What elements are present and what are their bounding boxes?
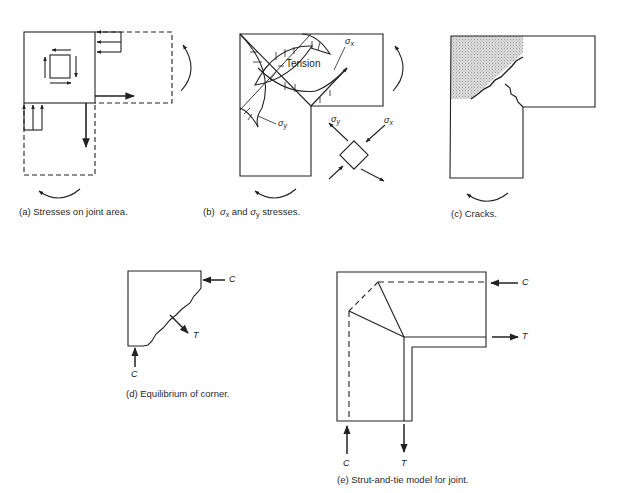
joint-square <box>24 32 95 103</box>
label-d-c-right: C <box>229 274 236 284</box>
caption-b-suffix: stresses. <box>260 206 301 217</box>
joint-outline <box>337 272 486 421</box>
label-sigma-x-element: σx <box>384 115 393 126</box>
figure-b-sigma-stresses <box>240 34 403 198</box>
column-dashed-outline <box>24 103 95 175</box>
label-d-t: T <box>193 330 199 340</box>
stress-element <box>340 141 368 169</box>
label-e-c-right: C <box>522 277 529 287</box>
moment-arrow-icon <box>181 45 191 91</box>
sigma-y-leader <box>258 116 276 124</box>
strut-dashed <box>349 282 378 311</box>
label-tension: Tension <box>286 58 320 69</box>
figure-a-stresses-on-joint <box>24 32 191 198</box>
figure-d-equilibrium <box>128 271 225 367</box>
cracked-shaded-corner <box>451 36 523 99</box>
shear-element <box>50 55 70 78</box>
sigma-x-arrow-icon <box>329 166 343 179</box>
label-sigma-y-left: σy <box>278 118 287 129</box>
label-e-c-bottom: C <box>343 458 350 468</box>
tie-line <box>404 337 486 421</box>
caption-d: (d) Equilibrium of corner. <box>126 388 229 399</box>
sigma-x-curve <box>240 34 266 127</box>
moment-arrow-icon <box>467 193 508 201</box>
label-d-c-bottom: C <box>131 369 138 379</box>
label-e-t-bottom: T <box>401 458 407 468</box>
beam-dashed-outline <box>95 32 172 103</box>
figure-c-cracks <box>450 36 595 201</box>
tie-diagonal <box>349 311 404 337</box>
tension-arrow-icon <box>170 315 188 333</box>
label-sigma-x-top: σx <box>345 36 354 47</box>
caption-a: (a) Stresses on joint area. <box>19 206 128 217</box>
sigma-y-arrow-icon <box>361 169 384 181</box>
figure-canvas <box>0 0 620 493</box>
moment-arrow-icon <box>393 46 403 91</box>
label-sigma-y-element: σy <box>331 114 340 125</box>
corner-free-body <box>128 271 201 346</box>
sigma-x-arrow-icon <box>366 125 385 142</box>
figure-e-strut-and-tie <box>337 272 518 454</box>
tie-diagonal <box>378 282 404 337</box>
caption-c: (c) Cracks. <box>451 208 497 219</box>
moment-arrow-icon <box>39 189 80 198</box>
caption-b-and: and <box>229 206 250 217</box>
sigma-y-arrow-icon <box>329 123 348 141</box>
corner-crack <box>505 84 523 107</box>
moment-arrow-icon <box>255 189 296 198</box>
caption-b: (b) σx and σy stresses. <box>203 206 300 218</box>
caption-e: (e) Strut-and-tie model for joint. <box>337 474 468 485</box>
caption-b-prefix: (b) <box>203 206 215 217</box>
label-e-t-right: T <box>522 331 528 341</box>
sigma-x-leader <box>334 47 345 70</box>
